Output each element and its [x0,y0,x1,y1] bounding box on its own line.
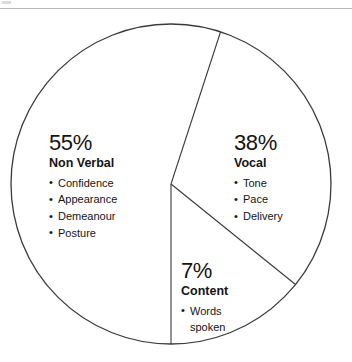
list-item: Appearance [49,191,117,208]
slice-label-vocal: 38% Vocal Tone Pace Delivery [234,131,283,225]
slice-items-non-verbal: Confidence Appearance Demeanour Posture [49,175,117,242]
list-item: Demeanour [49,208,117,225]
slice-label-non-verbal: 55% Non Verbal Confidence Appearance Dem… [49,131,117,242]
slice-percent-vocal: 38% [234,131,283,154]
slice-category-non-verbal: Non Verbal [49,156,117,172]
list-item: Confidence [49,175,117,192]
list-item: Tone [234,175,283,192]
list-item: Pace [234,191,283,208]
slice-category-vocal: Vocal [234,156,283,172]
pie-chart: 55% Non Verbal Confidence Appearance Dem… [0,0,352,362]
list-item: Posture [49,225,117,242]
slice-category-content: Content [181,284,242,300]
slice-items-content: Words spoken [181,303,242,336]
slice-label-content: 7% Content Words spoken [181,259,242,336]
slice-percent-content: 7% [181,259,242,282]
slice-items-vocal: Tone Pace Delivery [234,175,283,225]
list-item: Delivery [234,208,283,225]
slice-percent-non-verbal: 55% [49,131,117,154]
list-item: Words spoken [181,303,242,336]
